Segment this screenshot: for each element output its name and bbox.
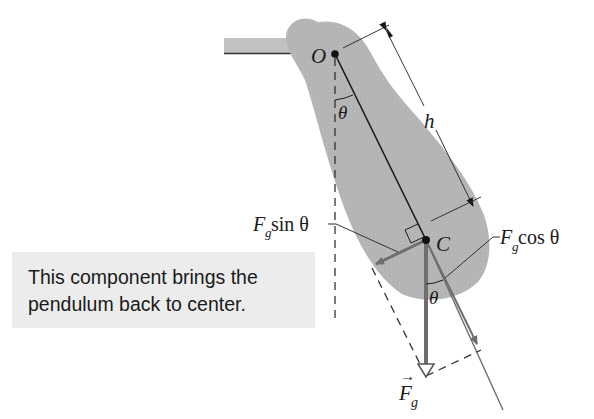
tangential-force-label: F g sin θ [252, 213, 309, 240]
svg-text:F: F [252, 213, 266, 235]
center-of-mass-label: C [436, 232, 451, 256]
svg-text:F: F [398, 381, 412, 405]
radial-force-label: F g cos θ [499, 226, 559, 254]
angle-label-bottom: θ [429, 287, 438, 308]
callout-box: This component brings the pendulum back … [12, 252, 315, 328]
pivot-label: O [311, 44, 326, 68]
gravity-force-label: → F g [398, 368, 418, 410]
svg-text:F: F [499, 226, 513, 248]
svg-text:cos θ: cos θ [518, 226, 559, 248]
center-of-mass-point [422, 236, 430, 244]
angle-label-top: θ [338, 102, 347, 123]
pendulum-diagram: O θ h θ C F g sin θ F g cos θ [0, 0, 594, 419]
pivot-point [331, 50, 339, 58]
distance-h-label: h [424, 109, 435, 133]
svg-text:g: g [411, 395, 418, 410]
callout-line-1: This component brings the [28, 264, 315, 291]
svg-text:sin θ: sin θ [271, 213, 309, 235]
callout-line-2: pendulum back to center. [28, 291, 315, 318]
